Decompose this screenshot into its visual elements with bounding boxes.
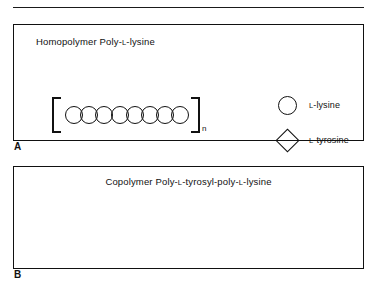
legend-item-l-lysine: L-lysine xyxy=(265,95,375,119)
bracket-close xyxy=(191,97,200,133)
top-horizontal-rule xyxy=(13,7,364,8)
bracket-open xyxy=(52,97,61,133)
panel-b: Copolymer Poly-L-tyrosyl-poly-L-lysine n xyxy=(13,166,364,269)
polymer-structure-figure: Homopolymer Poly-L-lysine n L-lysine L-t… xyxy=(0,0,377,294)
monomer-circle xyxy=(65,106,83,124)
panel-a-title-mid: -lysine xyxy=(126,36,155,47)
legend-item-l-tyrosine: L-tyrosine xyxy=(265,130,375,154)
panel-a-title-prefix: Homopolymer Poly- xyxy=(36,36,122,47)
homopolymer-chain: n xyxy=(52,91,212,139)
monomer-circle xyxy=(111,106,129,124)
repeat-subscript-n: n xyxy=(202,124,206,133)
panel-a-title: Homopolymer Poly-L-lysine xyxy=(36,36,155,47)
panel-b-title-prefix: Copolymer Poly- xyxy=(105,176,177,187)
chain-unit-row xyxy=(65,91,189,139)
panel-label-b: B xyxy=(14,269,21,280)
legend-label-l-tyrosine: L-tyrosine xyxy=(309,135,349,145)
diamond-icon xyxy=(275,128,299,152)
legend-label-rest: -lysine xyxy=(313,100,340,110)
monomer-circle xyxy=(95,106,113,124)
legend-label-rest: -tyrosine xyxy=(313,135,348,145)
circle-icon xyxy=(278,96,297,115)
legend-label-l-lysine: L-lysine xyxy=(309,100,340,110)
panel-b-title: Copolymer Poly-L-tyrosyl-poly-L-lysine xyxy=(14,176,363,187)
legend: L-lysine L-tyrosine xyxy=(265,85,375,155)
panel-label-a: A xyxy=(14,141,21,152)
panel-b-title-suffix: -lysine xyxy=(243,176,272,187)
panel-a: Homopolymer Poly-L-lysine n L-lysine L-t… xyxy=(13,24,364,141)
panel-b-title-mid: -tyrosyl-poly- xyxy=(182,176,238,187)
monomer-circle xyxy=(171,106,189,124)
